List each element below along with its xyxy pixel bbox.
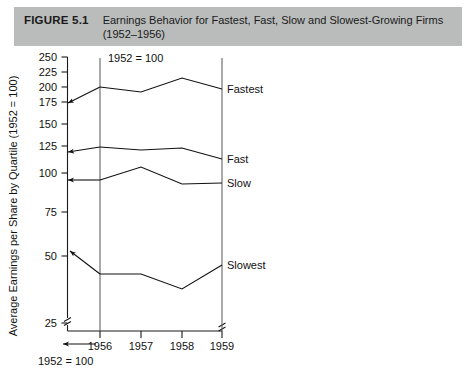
slow-line xyxy=(100,167,222,184)
figure-number-label: FIGURE 5.1 xyxy=(24,13,89,26)
x-tick-label: 1959 xyxy=(210,340,234,352)
y-tick-label: 100 xyxy=(39,167,57,179)
series-slow: Slow xyxy=(68,167,251,189)
figure-caption-text: Earnings Behavior for Fastest, Fast, Slo… xyxy=(103,13,444,41)
series-slowest: Slowest xyxy=(70,251,266,289)
slowest-lead-arrow xyxy=(70,251,100,274)
figure-caption-bar: FIGURE 5.1 Earnings Behavior for Fastest… xyxy=(14,7,462,46)
x-tick-label: 1958 xyxy=(170,340,194,352)
vertical-reference-lines xyxy=(100,58,222,331)
y-tick-label: 75 xyxy=(45,206,57,218)
series-label-fast: Fast xyxy=(227,153,248,165)
figure-container: FIGURE 5.1 Earnings Behavior for Fastest… xyxy=(0,0,472,375)
y-axis-title: Average Earnings per Share by Quartile (… xyxy=(7,76,19,337)
chart-plot-area: Average Earnings per Share by Quartile (… xyxy=(0,46,472,375)
x-tick-label: 1956 xyxy=(88,340,112,352)
series-fast: Fast xyxy=(68,147,248,165)
fastest-line xyxy=(100,78,222,92)
line-chart-svg: Average Earnings per Share by Quartile (… xyxy=(0,46,472,375)
fast-line xyxy=(100,147,222,159)
y-tick-label: 150 xyxy=(39,118,57,130)
y-tick-label: 175 xyxy=(39,96,57,108)
fastest-lead-arrow xyxy=(68,87,100,103)
y-tick-label: 225 xyxy=(39,66,57,78)
y-tick-label: 250 xyxy=(39,51,57,63)
fast-lead-arrow xyxy=(68,147,100,152)
y-tick-label: 50 xyxy=(45,250,57,262)
y-tick-label: 125 xyxy=(39,140,57,152)
x-axis xyxy=(68,323,226,331)
series-fastest: Fastest xyxy=(68,78,263,103)
series-label-slowest: Slowest xyxy=(227,259,266,271)
bottom-base-year-note: 1952 = 100 xyxy=(38,355,93,367)
slowest-line xyxy=(100,265,222,289)
figure-caption-line-1: Earnings Behavior for Fastest, Fast, Slo… xyxy=(103,13,444,27)
y-tick-label: 25 xyxy=(45,317,57,329)
figure-caption-line-2: (1952–1956) xyxy=(103,27,444,41)
x-tick-label: 1957 xyxy=(129,340,153,352)
y-tick-label: 200 xyxy=(39,81,57,93)
series-label-fastest: Fastest xyxy=(227,83,263,95)
y-axis-ticks: 250 225 200 175 150 125 100 xyxy=(39,51,68,329)
series-label-slow: Slow xyxy=(227,177,251,189)
y-axis xyxy=(64,57,71,331)
x-axis-ticks: 1956 1957 1958 1959 xyxy=(88,331,234,352)
top-base-year-note: 1952 = 100 xyxy=(108,52,163,64)
